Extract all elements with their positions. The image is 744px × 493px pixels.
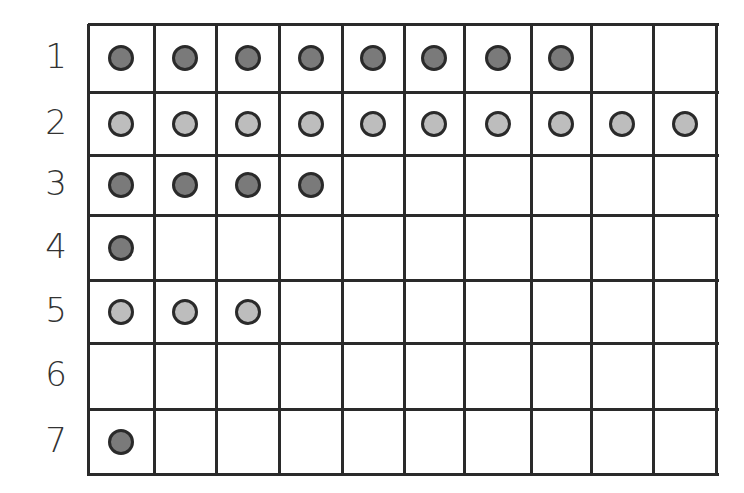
- dot-row-5: [172, 299, 198, 325]
- row-label: 3: [36, 163, 76, 203]
- dot-row-1: [108, 45, 134, 71]
- dot-row-3: [172, 172, 198, 198]
- dot-row-5: [108, 299, 134, 325]
- dot-row-2: [235, 111, 261, 137]
- dot-row-5: [235, 299, 261, 325]
- dot-row-2: [421, 111, 447, 137]
- dot-row-2: [672, 111, 698, 137]
- dot-row-2: [360, 111, 386, 137]
- grid-row-line: [88, 473, 719, 476]
- dot-row-2: [298, 111, 324, 137]
- dot-row-1: [485, 45, 511, 71]
- grid-row-line: [88, 279, 719, 282]
- dot-row-2: [609, 111, 635, 137]
- dot-row-7: [108, 429, 134, 455]
- dot-row-1: [235, 45, 261, 71]
- dot-row-1: [360, 45, 386, 71]
- dot-row-4: [108, 235, 134, 261]
- dot-row-1: [298, 45, 324, 71]
- grid-row-line: [88, 342, 719, 345]
- grid-row-line: [88, 408, 719, 411]
- dot-row-3: [108, 172, 134, 198]
- dot-row-1: [421, 45, 447, 71]
- dot-row-3: [298, 172, 324, 198]
- row-label: 6: [36, 354, 76, 394]
- grid-row-line: [88, 154, 719, 157]
- dot-row-2: [548, 111, 574, 137]
- dot-grid: [88, 24, 716, 474]
- row-label: 1: [36, 36, 76, 76]
- dot-row-2: [172, 111, 198, 137]
- dot-row-1: [172, 45, 198, 71]
- grid-row-line: [88, 91, 719, 94]
- dot-row-3: [235, 172, 261, 198]
- row-label: 2: [36, 102, 76, 142]
- dot-row-2: [485, 111, 511, 137]
- dot-row-1: [548, 45, 574, 71]
- grid-row-line: [88, 214, 719, 217]
- dot-row-2: [108, 111, 134, 137]
- row-label: 7: [36, 420, 76, 460]
- row-label: 5: [36, 290, 76, 330]
- grid-row-line: [88, 23, 719, 26]
- row-label: 4: [36, 226, 76, 266]
